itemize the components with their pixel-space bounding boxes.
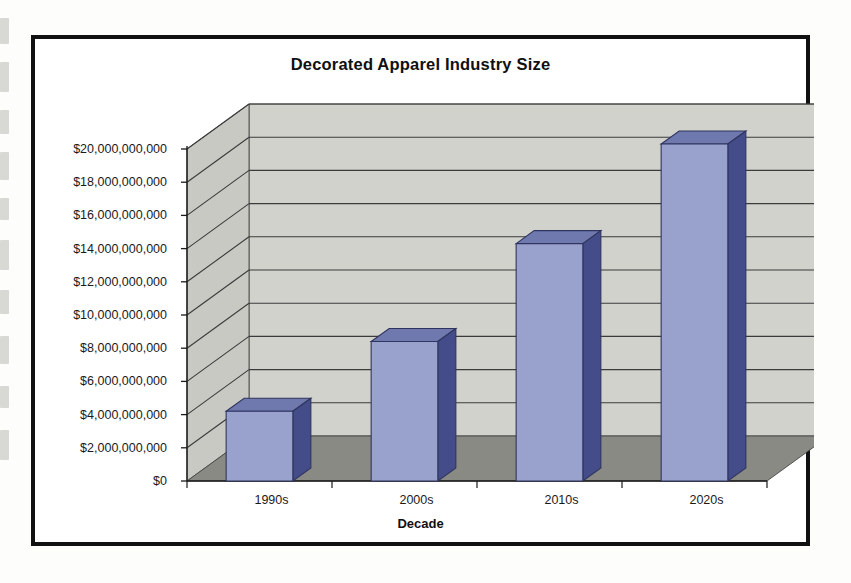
bar-front-face — [226, 411, 293, 481]
y-axis-tick-label: $20,000,000,000 — [15, 142, 167, 156]
scan-artifact — [0, 110, 9, 134]
bar-2000s — [371, 329, 456, 481]
bar-1990s — [226, 398, 311, 481]
x-axis-tick-label: 1990s — [254, 493, 288, 507]
scan-artifact — [0, 240, 9, 270]
x-axis-tick-label: 2010s — [544, 493, 578, 507]
scan-artifact — [0, 430, 9, 460]
y-axis-tick-label: $18,000,000,000 — [15, 175, 167, 189]
scanned-page: Decorated Apparel Industry Size $0$2,000… — [0, 0, 851, 583]
bar-side-face — [583, 231, 601, 481]
y-axis-tick-label: $0 — [15, 474, 167, 488]
bar-side-face — [293, 398, 311, 481]
bar-front-face — [371, 342, 438, 481]
x-axis-title: Decade — [35, 516, 806, 531]
x-axis-tick-label: 2000s — [399, 493, 433, 507]
bar-front-face — [516, 244, 583, 481]
scan-artifact — [0, 18, 9, 44]
bar-2020s — [661, 131, 746, 481]
y-axis-tick-label: $2,000,000,000 — [15, 441, 167, 455]
y-axis-tick-label: $6,000,000,000 — [15, 374, 167, 388]
y-axis-tick-label: $8,000,000,000 — [15, 341, 167, 355]
scan-artifact — [0, 336, 9, 364]
bar-side-face — [728, 131, 746, 481]
scan-artifact — [0, 386, 9, 408]
bar-2010s — [516, 231, 601, 481]
plot-area: $0$2,000,000,000$4,000,000,000$6,000,000… — [35, 39, 814, 550]
y-axis-tick-labels: $0$2,000,000,000$4,000,000,000$6,000,000… — [15, 39, 167, 550]
scan-artifact — [0, 198, 9, 220]
y-axis-tick-label: $14,000,000,000 — [15, 242, 167, 256]
scan-artifact — [0, 62, 9, 92]
y-axis-tick-label: $10,000,000,000 — [15, 308, 167, 322]
bar-front-face — [661, 144, 728, 481]
scan-artifact — [0, 290, 9, 314]
x-axis-tick-label: 2020s — [689, 493, 723, 507]
chart-frame: Decorated Apparel Industry Size $0$2,000… — [31, 35, 810, 546]
y-axis-tick-label: $12,000,000,000 — [15, 275, 167, 289]
y-axis-tick-label: $16,000,000,000 — [15, 208, 167, 222]
bar-side-face — [438, 329, 456, 481]
y-axis-tick-label: $4,000,000,000 — [15, 408, 167, 422]
scan-artifact — [0, 152, 9, 180]
